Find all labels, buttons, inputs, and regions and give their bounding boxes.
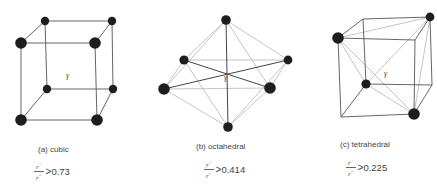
tetrahedral-caption: (c) tetrahedral	[340, 140, 390, 149]
radius-ratio-fraction: r+ r−	[34, 161, 44, 182]
atom	[223, 122, 233, 132]
ratio-value: 0.73	[51, 166, 70, 177]
atom	[284, 56, 293, 65]
atom	[361, 79, 370, 88]
atom	[15, 37, 27, 49]
atom	[91, 114, 103, 126]
tetrahedral-light-edges	[338, 17, 430, 114]
atom	[109, 85, 117, 93]
cubic-structure: γ	[15, 17, 117, 126]
atom	[221, 15, 231, 25]
atom	[158, 83, 170, 95]
ratio-value: 0.414	[221, 164, 245, 175]
tetrahedral-center-label: γ	[384, 69, 388, 78]
octahedral-ratio: r+ r− > 0.414	[204, 159, 245, 180]
tetrahedral-structure: γ	[332, 13, 434, 120]
atom	[332, 32, 344, 44]
atom	[15, 114, 27, 126]
atom	[89, 37, 101, 49]
atom	[426, 13, 435, 22]
radius-ratio-fraction: r+ r−	[204, 159, 214, 180]
radius-ratio-fraction: r+ r−	[346, 157, 356, 178]
cubic-ratio: r+ r− > 0.73	[34, 161, 70, 182]
atom	[408, 108, 420, 120]
atom	[41, 17, 49, 25]
ratio-value: 0.225	[363, 162, 387, 173]
octahedral-structure: γ	[158, 15, 292, 132]
cubic-caption: (a) cubic	[38, 145, 69, 154]
atom	[43, 85, 51, 93]
atom	[179, 55, 188, 64]
atom	[264, 82, 276, 94]
tetrahedral-ratio: r+ r− > 0.225	[346, 157, 387, 178]
atom	[108, 17, 116, 25]
octahedral-caption: (b) octahedral	[196, 142, 245, 151]
tetrahedral-cube-edges	[338, 17, 432, 117]
cubic-center-label: γ	[66, 71, 70, 80]
